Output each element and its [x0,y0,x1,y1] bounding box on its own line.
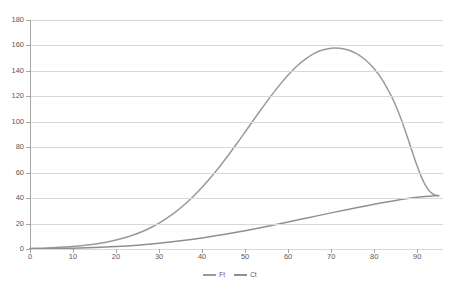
y-axis-label: 80 [0,143,24,151]
legend-item-ft[interactable]: Ft [203,272,225,279]
x-axis-label: 60 [273,253,303,261]
y-axis-tick [26,224,31,225]
y-axis-tick [26,71,31,72]
x-axis-label: 40 [187,253,217,261]
gridline-y [30,147,443,148]
y-axis-label: 40 [0,194,24,202]
x-axis-label: 50 [230,253,260,261]
y-axis-tick [26,96,31,97]
legend-label-ft: Ft [219,272,225,279]
y-axis-label: 120 [0,92,24,100]
gridline-y [30,198,443,199]
x-axis-label: 20 [101,253,131,261]
y-axis-tick [26,173,31,174]
series-line-ft [30,48,439,248]
y-axis-label: 0 [0,245,24,253]
chart-container: 020406080100120140160180 Ft Ct 010203040… [0,0,460,293]
x-axis-label: 0 [15,253,45,261]
legend-item-ct[interactable]: Ct [234,272,257,279]
legend-swatch-ct [234,274,247,276]
gridline-y [30,122,443,123]
gridline-y [30,96,443,97]
x-axis-label: 80 [359,253,389,261]
y-axis-label: 60 [0,169,24,177]
y-axis-tick [26,198,31,199]
gridline-y [30,224,443,225]
gridline-y [30,45,443,46]
plot-area [30,20,443,249]
x-axis-label: 30 [144,253,174,261]
legend-label-ct: Ct [250,272,257,279]
y-axis-tick [26,147,31,148]
legend-swatch-ft [203,274,216,276]
x-axis-label: 90 [402,253,432,261]
y-axis-tick [26,20,31,21]
x-axis-label: 10 [58,253,88,261]
y-axis-label: 160 [0,41,24,49]
y-axis-tick [26,45,31,46]
y-axis-tick [26,122,31,123]
gridline-y [30,71,443,72]
gridline-y [30,20,443,21]
chart-legend: Ft Ct [0,272,460,279]
gridline-y [30,249,443,250]
gridline-y [30,173,443,174]
y-axis-label: 100 [0,118,24,126]
y-axis-label: 140 [0,67,24,75]
y-axis-label: 180 [0,16,24,24]
series-lines [30,20,443,249]
y-axis-label: 20 [0,220,24,228]
series-line-ct [30,196,439,249]
x-axis-label: 70 [316,253,346,261]
